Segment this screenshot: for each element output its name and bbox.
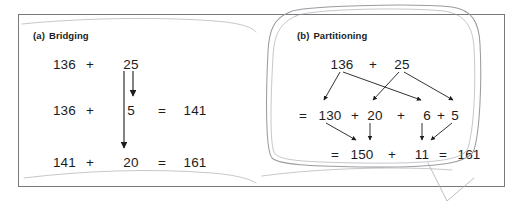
panel-a-row-2-right: 20: [118, 155, 144, 170]
panel-a-row-2-op: +: [83, 155, 97, 170]
panel-b-middle-term-2: 6: [420, 108, 434, 123]
panel-a-label: (a)Bridging: [33, 30, 89, 41]
panel-a-tag: (a): [33, 30, 45, 41]
panel-b-top-op: +: [366, 57, 380, 72]
panel-a-row-1-eq: =: [155, 103, 169, 118]
panel-b-top-left: 136: [325, 57, 359, 72]
panel-b-bottom-total: 161: [454, 147, 484, 162]
panel-b-middle-term-0: 130: [313, 108, 347, 123]
panel-a-row-0-left: 136: [42, 57, 76, 72]
panel-b-middle-term-3: 5: [448, 108, 462, 123]
panel-b-bottom-second: 11: [411, 147, 433, 162]
panel-a-row-1-result: 141: [178, 103, 212, 118]
panel-b-bottom-eq: =: [328, 147, 342, 162]
panel-b-middle-op-1: +: [394, 108, 408, 123]
panel-b-label: (b)Partitioning: [297, 30, 367, 41]
panel-b-bottom-op: +: [385, 147, 399, 162]
panel-a-row-2-left: 141: [42, 155, 76, 170]
panel-a-row-0-right: 25: [118, 57, 144, 72]
panel-a-row-2-result: 161: [178, 155, 212, 170]
panel-b-top-right: 25: [389, 57, 415, 72]
panel-b-title: Partitioning: [313, 30, 367, 41]
panel-a-row-1-op: +: [83, 103, 97, 118]
panel-b-middle-eq: =: [296, 108, 310, 123]
panel-b-middle-op-0: +: [349, 108, 361, 123]
panel-a-row-2-eq: =: [155, 155, 169, 170]
panel-b-bottom-eq2: =: [436, 147, 450, 162]
panel-a-row-1-left: 136: [42, 103, 76, 118]
panel-b-tag: (b): [297, 30, 309, 41]
panel-b-bottom-first: 150: [345, 147, 379, 162]
figure-container: (a)Bridging (b)Partitioning 136 + 25 136…: [0, 0, 519, 201]
panel-a-row-0-op: +: [83, 57, 97, 72]
panel-b-middle-term-1: 20: [362, 108, 388, 123]
panel-b-middle-op-2: +: [435, 108, 447, 123]
panel-a-row-1-right: 5: [118, 103, 144, 118]
panel-a-title: Bridging: [49, 30, 89, 41]
